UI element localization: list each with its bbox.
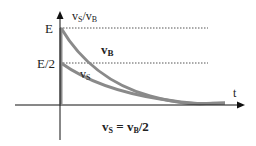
y-axis-label: vS/vB <box>72 9 97 24</box>
curve-vB-label: vB <box>101 42 114 58</box>
x-axis-arrow-icon <box>237 102 245 109</box>
voltage-decay-diagram: vS/vB E E/2 vB vS t vS = vB/2 <box>0 0 256 146</box>
curve-vS-label: vS <box>80 67 90 82</box>
tick-label-E2: E/2 <box>37 56 55 71</box>
x-axis-label: t <box>233 86 237 100</box>
equation-label: vS = vB/2 <box>102 119 149 135</box>
y-axis-arrow-icon <box>57 11 64 19</box>
tick-label-E: E <box>45 21 53 36</box>
curve-vB <box>61 28 225 104</box>
